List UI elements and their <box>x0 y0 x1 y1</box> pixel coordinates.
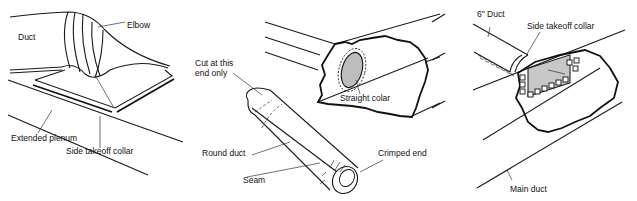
panel-side-takeoff <box>432 14 625 188</box>
panel-round-duct <box>233 14 440 198</box>
label-seam: Seam <box>243 175 265 185</box>
label-duct: Duct <box>18 32 35 42</box>
label-cut-at-this-end: Cut at this end only <box>195 58 233 78</box>
label-crimped-end: Crimped end <box>378 148 427 158</box>
label-straight-collar: Straight colar <box>340 93 390 103</box>
label-cut-line2: end only <box>195 68 233 78</box>
label-side-takeoff-collar-2: Side takeoff collar <box>527 21 594 31</box>
label-extended-plenum: Extended plenum <box>11 133 77 143</box>
label-main-duct: Main duct <box>510 184 547 194</box>
label-6-inch-duct: 6" Duct <box>477 9 505 19</box>
ductwork-diagram: Duct Elbow Extended plenum Side takeoff … <box>0 0 637 201</box>
label-elbow: Elbow <box>127 20 150 30</box>
label-cut-line1: Cut at this <box>195 58 233 68</box>
label-side-takeoff-collar-1: Side takeoff collar <box>66 146 133 156</box>
label-round-duct: Round duct <box>202 148 245 158</box>
